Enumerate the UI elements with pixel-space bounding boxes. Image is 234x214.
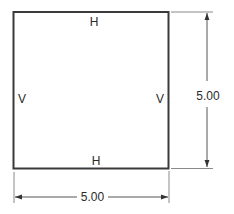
square-dimension-diagram: H H V V 5.00 5.00: [0, 0, 234, 214]
right-edge-label: V: [156, 92, 164, 106]
square-outline: [14, 12, 169, 169]
top-edge-label: H: [90, 15, 99, 29]
height-dimension-value: 5.00: [196, 89, 220, 103]
bottom-edge-label: H: [92, 154, 101, 168]
left-edge-label: V: [18, 92, 26, 106]
width-dimension-value: 5.00: [81, 190, 105, 204]
